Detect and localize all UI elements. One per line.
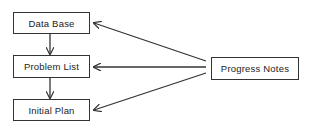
node-progress-notes: Progress Notes	[211, 57, 299, 80]
node-initial-plan: Initial Plan	[13, 99, 90, 121]
node-label: Data Base	[28, 18, 74, 29]
node-label: Progress Notes	[221, 63, 289, 74]
node-data-base: Data Base	[13, 12, 90, 34]
node-problem-list: Problem List	[13, 55, 90, 78]
node-label: Initial Plan	[28, 105, 74, 116]
arrow-progressnotes-to-database	[94, 23, 206, 61]
arrow-progressnotes-to-initialplan	[94, 73, 206, 110]
node-label: Problem List	[24, 61, 79, 72]
